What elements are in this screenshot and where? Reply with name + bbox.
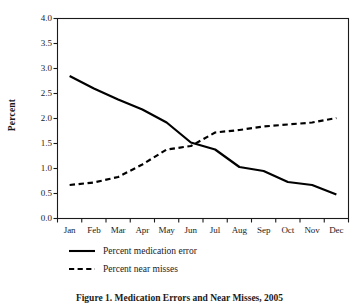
legend-item-near-misses: Percent near misses <box>68 262 178 276</box>
figure-caption: Figure 1. Medication Errors and Near Mis… <box>0 293 359 303</box>
series-line-medication-error <box>70 76 337 195</box>
chart-legend: Percent medication error Percent near mi… <box>0 243 359 283</box>
plot-area: Percent 0.00.51.01.52.02.53.03.54.0 JanF… <box>0 0 359 240</box>
legend-label-medication-error: Percent medication error <box>103 246 197 256</box>
legend-item-medication-error: Percent medication error <box>68 244 197 258</box>
series-line-near-misses <box>70 118 337 185</box>
chart-canvas <box>0 0 359 240</box>
legend-label-near-misses: Percent near misses <box>103 264 178 274</box>
legend-swatch-solid-icon <box>68 246 96 256</box>
legend-swatch-dashed-icon <box>68 264 96 274</box>
figure-medication-errors: Percent 0.00.51.01.52.02.53.03.54.0 JanF… <box>0 0 359 305</box>
